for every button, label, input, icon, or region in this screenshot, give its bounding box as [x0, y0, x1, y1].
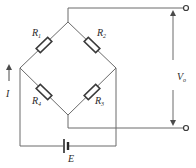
- r4-label: R4: [31, 95, 41, 107]
- r3-label: R3: [94, 95, 104, 107]
- resistor-r4: [36, 84, 52, 99]
- resistor-r1: [36, 37, 52, 52]
- output-terminal-bottom: [184, 126, 189, 131]
- bridge-circuit-diagram: R1 R2 R3 R4 E I Vo: [0, 0, 196, 168]
- output-voltage-label: Vo: [177, 71, 186, 83]
- current-label: I: [5, 88, 10, 99]
- excitation-wires: [20, 68, 116, 146]
- battery-label: E: [67, 153, 74, 164]
- r2-label: R2: [96, 27, 106, 39]
- resistor-r2: [84, 37, 100, 52]
- output-wires: [68, 8, 183, 128]
- output-terminal-top: [184, 6, 189, 11]
- battery-icon: [64, 139, 68, 153]
- r1-label: R1: [31, 27, 41, 39]
